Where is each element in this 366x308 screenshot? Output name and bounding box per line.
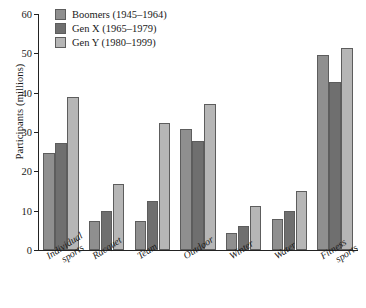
y-tick-label: 30 [22, 127, 33, 138]
bar-group [129, 14, 175, 250]
legend-label: Boomers (1945–1964) [72, 9, 167, 20]
chart-legend: Boomers (1945–1964)Gen X (1965–1979)Gen … [55, 9, 167, 48]
bar-group [221, 14, 267, 250]
bar [204, 104, 216, 250]
legend-item: Gen Y (1980–1999) [55, 37, 167, 48]
bar [329, 82, 341, 250]
legend-item: Gen X (1965–1979) [55, 23, 167, 34]
y-tick-label: 40 [22, 87, 33, 98]
bar [159, 123, 171, 250]
y-tick-label: 50 [22, 48, 33, 59]
bar [43, 153, 55, 250]
x-axis-labels: IndividualsportsRacquetTeamOutdoorWinter… [38, 252, 358, 308]
legend-label: Gen X (1965–1979) [72, 23, 157, 34]
bar-group [267, 14, 313, 250]
bar [192, 141, 204, 250]
bar-group [84, 14, 130, 250]
bar [67, 97, 79, 250]
bar [317, 55, 329, 250]
bar [180, 129, 192, 250]
legend-swatch-icon [55, 37, 66, 48]
bar-groups [38, 14, 358, 250]
bar [341, 48, 353, 250]
legend-item: Boomers (1945–1964) [55, 9, 167, 20]
bar-chart: Participants (millions) 0102030405060 In… [0, 0, 366, 308]
y-tick-label: 0 [27, 245, 32, 256]
bar-group [175, 14, 221, 250]
legend-swatch-icon [55, 23, 66, 34]
y-tick [34, 250, 38, 251]
bar [55, 143, 67, 250]
y-tick-label: 10 [22, 205, 33, 216]
bar [296, 191, 308, 250]
y-tick-label: 60 [22, 9, 33, 20]
y-tick-label: 20 [22, 166, 33, 177]
bar-group [312, 14, 358, 250]
bar-group [38, 14, 84, 250]
legend-swatch-icon [55, 9, 66, 20]
plot-area: 0102030405060 [38, 14, 358, 250]
legend-label: Gen Y (1980–1999) [72, 37, 156, 48]
